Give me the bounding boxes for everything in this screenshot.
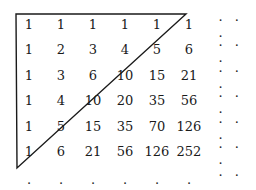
matrix-cell: 1	[13, 17, 45, 33]
matrix-cell: 5	[45, 119, 77, 135]
matrix-cell: 3	[77, 42, 109, 58]
column-ellipsis: .	[77, 172, 109, 188]
matrix-cell: 6	[77, 68, 109, 84]
matrix-cell: 126	[141, 144, 173, 160]
matrix-cell: 21	[173, 68, 205, 84]
matrix-cell: 56	[109, 144, 141, 160]
matrix-cell: 6	[173, 42, 205, 58]
matrix-cell: 10	[109, 68, 141, 84]
column-ellipsis: . . .	[219, 164, 244, 190]
matrix-cell: 5	[141, 42, 173, 58]
matrix-cell: 1	[45, 17, 77, 33]
matrix-cell: 4	[109, 42, 141, 58]
matrix-cell: 126	[173, 119, 205, 135]
matrix-cell: 35	[141, 93, 173, 109]
matrix-cell: 15	[77, 119, 109, 135]
matrix-cell: 1	[13, 42, 45, 58]
matrix-cell: 56	[173, 93, 205, 109]
matrix-cell: 1	[13, 119, 45, 135]
matrix-cell: 2	[45, 42, 77, 58]
column-ellipsis: .	[13, 172, 45, 188]
matrix-cell: 1	[13, 68, 45, 84]
column-ellipsis: .	[109, 172, 141, 188]
matrix-cell: 15	[141, 68, 173, 84]
matrix-cell: 70	[141, 119, 173, 135]
matrix-cell: 1	[13, 93, 45, 109]
column-ellipsis: .	[45, 172, 77, 188]
matrix-cell: 1	[13, 144, 45, 160]
matrix-cell: 1	[141, 17, 173, 33]
matrix-cell: 252	[173, 144, 205, 160]
matrix-cell: 10	[77, 93, 109, 109]
matrix-cell: 6	[45, 144, 77, 160]
matrix-cell: 4	[45, 93, 77, 109]
matrix-cell: 1	[109, 17, 141, 33]
matrix-cell: 1	[173, 17, 205, 33]
matrix-cell: 3	[45, 68, 77, 84]
matrix-cell: 21	[77, 144, 109, 160]
column-ellipsis: .	[141, 172, 173, 188]
matrix-cell: 20	[109, 93, 141, 109]
matrix-cell: 1	[77, 17, 109, 33]
matrix-cell: 35	[109, 119, 141, 135]
column-ellipsis: .	[173, 172, 205, 188]
